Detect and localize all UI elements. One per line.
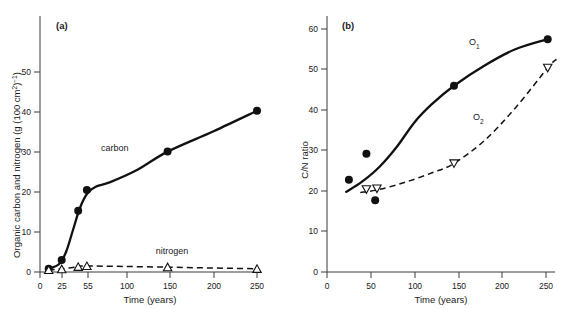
panel-b-x-tick-200: 200 [495, 281, 509, 291]
panel-b-y-tick-50: 50 [309, 64, 319, 74]
panel-a-y-tick-20: 20 [22, 187, 32, 197]
panel-a-y-tick-10: 10 [22, 227, 32, 237]
panel-b-y-tick-60: 60 [309, 24, 319, 34]
panel-b-x-tick-250: 250 [539, 281, 553, 291]
panel-b-y-tick-40: 40 [309, 105, 319, 115]
data-point-marker [544, 64, 552, 72]
panel-a-x-tick-150: 150 [163, 281, 177, 291]
panel-b-plot: (b) C/N ratio 0 10 20 30 40 50 [283, 0, 565, 309]
data-point-marker [74, 207, 82, 215]
panel-b-x-tick-50: 50 [366, 281, 376, 291]
o1-series-label: O1 [469, 37, 480, 50]
data-point-marker [362, 150, 370, 158]
carbon-curve [49, 111, 257, 269]
panel-a-y-ticks: 0 10 20 30 40 50 [22, 67, 40, 277]
panel-a-y-tick-50: 50 [22, 67, 32, 77]
data-point-marker [253, 107, 261, 115]
panel-b-x-tick-0: 0 [325, 281, 330, 291]
panel-b: (b) C/N ratio 0 10 20 30 40 50 [283, 0, 565, 309]
panel-b-y-tick-20: 20 [309, 186, 319, 196]
panel-b-x-tick-150: 150 [452, 281, 466, 291]
o1-series-label-subscript: 1 [476, 43, 480, 50]
o2-series-label-subscript: 2 [480, 118, 484, 125]
panel-a-y-tick-30: 30 [22, 147, 32, 157]
panel-a-y-tick-40: 40 [22, 107, 32, 117]
panel-b-y-tick-10: 10 [309, 226, 319, 236]
o2-series-label-text: O [473, 112, 480, 122]
panel-b-label: (b) [342, 20, 354, 31]
data-point-marker [253, 265, 261, 273]
panel-a-plot: (a) Organic carbon and nitrogen (g (100 … [0, 0, 283, 309]
carbon-series-label: carbon [101, 143, 129, 153]
panel-b-y-tick-0: 0 [313, 267, 318, 277]
panel-a-x-tick-250: 250 [250, 281, 264, 291]
panel-a-x-tick-55: 55 [83, 281, 93, 291]
panel-a-x-tick-100: 100 [120, 281, 134, 291]
data-point-marker [371, 196, 379, 204]
panel-a: (a) Organic carbon and nitrogen (g (100 … [0, 0, 283, 309]
o1-data-points [345, 35, 552, 204]
panel-a-x-tick-0: 0 [38, 281, 43, 291]
panel-b-x-tick-100: 100 [408, 281, 422, 291]
panel-b-x-ticks: 0 50 100 150 200 250 [325, 272, 554, 291]
data-point-marker [544, 35, 552, 43]
nitrogen-series-label: nitrogen [156, 246, 189, 256]
panel-a-label: (a) [56, 20, 68, 31]
data-point-marker [58, 256, 66, 264]
figure-container: (a) Organic carbon and nitrogen (g (100 … [0, 0, 565, 309]
data-point-marker [450, 82, 458, 90]
panel-a-y-tick-0: 0 [26, 267, 31, 277]
o1-series-label-text: O [469, 37, 476, 47]
data-point-marker [164, 148, 172, 156]
carbon-data-points [45, 107, 261, 273]
panel-a-x-axis-title: Time (years) [124, 294, 177, 305]
data-point-marker [83, 186, 91, 194]
panel-b-x-axis-title: Time (years) [415, 294, 468, 305]
panel-a-y-axis-title: Organic carbon and nitrogen (g (100 cm2)… [11, 72, 23, 258]
panel-a-y-axis-title-end: ) [11, 72, 22, 75]
panel-a-y-axis-title-main: Organic carbon and nitrogen (g (100 cm [11, 89, 22, 258]
o2-curve [360, 59, 556, 192]
panel-b-y-tick-30: 30 [309, 145, 319, 155]
o1-curve [346, 39, 547, 192]
panel-a-x-ticks: 0 25 55 100 150 200 250 [38, 272, 265, 291]
o2-series-label: O2 [473, 112, 484, 125]
panel-a-x-tick-200: 200 [207, 281, 221, 291]
data-point-marker [450, 160, 458, 168]
panel-a-x-tick-25: 25 [57, 281, 67, 291]
panel-b-y-ticks: 0 10 20 30 40 50 60 [309, 24, 327, 277]
data-point-marker [345, 176, 353, 184]
